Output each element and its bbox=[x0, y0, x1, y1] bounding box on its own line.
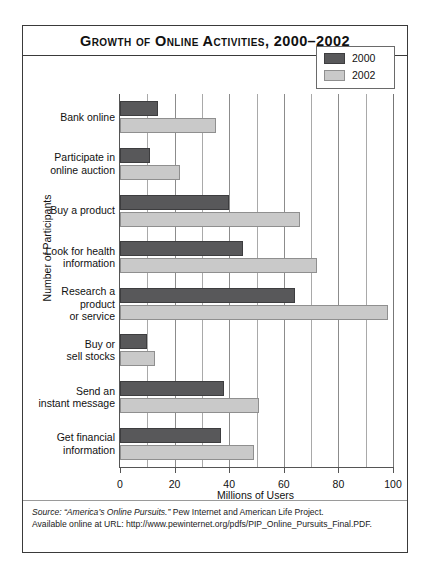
legend-swatch-2002 bbox=[324, 70, 345, 81]
category-label: Bank online bbox=[27, 111, 115, 124]
bar-group bbox=[120, 94, 393, 141]
legend: 2000 2002 bbox=[316, 46, 395, 89]
x-axis-tick bbox=[229, 467, 230, 473]
bar-2000 bbox=[120, 148, 150, 163]
bar-2002 bbox=[120, 398, 259, 413]
bar-2000 bbox=[120, 381, 224, 396]
category-label: Get financial information bbox=[27, 431, 115, 456]
category-label: Research a product or service bbox=[27, 285, 115, 323]
bar-2000 bbox=[120, 288, 295, 303]
source-citation-rest: Pew Internet and American Life Project. bbox=[170, 507, 323, 517]
bar-group bbox=[120, 141, 393, 188]
bar-group bbox=[120, 281, 393, 328]
category-label: Look for health information bbox=[27, 245, 115, 270]
source-note: Source: “America’s Online Pursuits.” Pew… bbox=[32, 507, 398, 530]
x-axis-tick bbox=[338, 467, 339, 473]
source-line-1: Source: “America’s Online Pursuits.” Pew… bbox=[32, 507, 398, 519]
bar-2000 bbox=[120, 195, 229, 210]
bar-group bbox=[120, 187, 393, 234]
bar-group bbox=[120, 327, 393, 374]
page-title: Growth of Online Activities, 2000–2002 bbox=[80, 33, 350, 49]
category-label: Buy or sell stocks bbox=[27, 338, 115, 363]
bar-2002 bbox=[120, 351, 155, 366]
source-divider bbox=[23, 500, 407, 501]
category-label: Buy a product bbox=[27, 204, 115, 217]
bar-2000 bbox=[120, 334, 147, 349]
x-axis-tick bbox=[120, 467, 121, 473]
category-label: Send an instant message bbox=[27, 385, 115, 410]
legend-swatch-2000 bbox=[324, 53, 345, 64]
bar-2002 bbox=[120, 118, 216, 133]
bar-2002 bbox=[120, 258, 317, 273]
plot-area: 020406080100 bbox=[119, 94, 394, 468]
bar-2000 bbox=[120, 241, 243, 256]
legend-label-2000: 2000 bbox=[352, 52, 375, 64]
chart-figure: Growth of Online Activities, 2000–2002 0… bbox=[22, 25, 408, 553]
x-axis-tick bbox=[393, 467, 394, 473]
category-label: Participate in online auction bbox=[27, 151, 115, 176]
legend-label-2002: 2002 bbox=[352, 69, 375, 81]
bar-2000 bbox=[120, 428, 221, 443]
bar-2002 bbox=[120, 445, 254, 460]
x-axis-tick bbox=[175, 467, 176, 473]
source-line-2: Available online at URL: http://www.pewi… bbox=[32, 519, 398, 531]
bar-group bbox=[120, 374, 393, 421]
x-axis-tick bbox=[284, 467, 285, 473]
bar-2000 bbox=[120, 101, 158, 116]
bar-group bbox=[120, 234, 393, 281]
bar-group bbox=[120, 420, 393, 467]
bar-2002 bbox=[120, 212, 300, 227]
bar-2002 bbox=[120, 305, 388, 320]
legend-item: 2002 bbox=[324, 69, 394, 81]
bar-2002 bbox=[120, 165, 180, 180]
source-citation-title: Source: “America’s Online Pursuits.” bbox=[32, 507, 170, 517]
legend-item: 2000 bbox=[324, 52, 394, 64]
